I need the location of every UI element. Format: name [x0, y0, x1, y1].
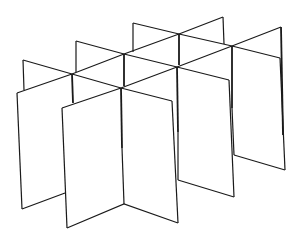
- outer-verticals: [17, 27, 285, 228]
- divider-illustration: [0, 0, 303, 241]
- junction-verticals: [72, 34, 234, 204]
- back-top-right-stub-edge: [223, 17, 224, 44]
- far-right-crosswise-outer-edge: [281, 27, 283, 135]
- middle-panel-bottom-edge: [178, 180, 234, 197]
- lengthwise-panel-tops: [23, 23, 280, 101]
- junction-back-left: [72, 74, 73, 103]
- front-panels-bottom-edge: [67, 204, 178, 228]
- front-left-panel-outer-edge: [62, 108, 67, 228]
- front-lengthwise-top-edge: [23, 60, 172, 101]
- back-panel-bottom-edge: [234, 155, 285, 170]
- junction-front-middle: [122, 148, 124, 204]
- crosswise-panel-tops: [17, 17, 281, 108]
- back-left-stub-edge: [23, 60, 24, 90]
- left-panel-bottom-edge: [22, 193, 65, 209]
- left-crosswise-top-edge: [17, 17, 223, 93]
- junction-front-middle-slot: [121, 88, 122, 148]
- right-crosswise-top-edge: [62, 27, 281, 108]
- grid-divider-drawing: [0, 0, 303, 241]
- bottom-edges: [22, 155, 285, 228]
- middle-lengthwise-top-edge: [76, 41, 229, 80]
- junction-front-right-slot: [177, 67, 178, 132]
- left-panel-outer-edge: [17, 93, 22, 209]
- back-lengthwise-top-edge: [133, 23, 280, 58]
